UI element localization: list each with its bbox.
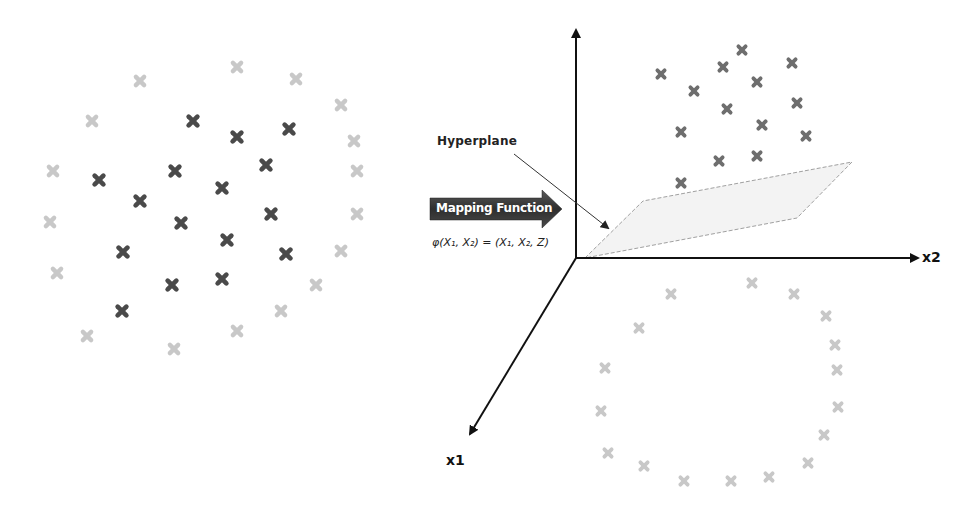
light-cross-icon — [816, 306, 836, 326]
light-cross-icon — [784, 284, 804, 304]
light-cross-icon — [270, 300, 293, 323]
dark-cross-icon — [215, 228, 239, 252]
dark-cross-icon — [651, 64, 671, 84]
kernel-trick-diagram: Hyperplane Mapping Function φ(X₁, X₂) = … — [0, 0, 973, 505]
light-cross-icon — [591, 401, 611, 421]
light-cross-icon — [825, 335, 845, 355]
dark-cross-icon — [87, 168, 111, 192]
light-cross-icon — [742, 273, 762, 293]
dark-cross-icon — [225, 125, 249, 149]
light-cross-icon — [330, 94, 353, 117]
light-cross-icon — [226, 56, 249, 79]
dark-cross-icon — [782, 53, 802, 73]
dark-cross-icon — [732, 40, 752, 60]
dark-cross-icon — [717, 99, 737, 119]
light-cross-icon — [595, 358, 615, 378]
dark-cross-icon — [259, 202, 283, 226]
diagram-scene — [0, 0, 973, 505]
light-cross-icon — [330, 240, 353, 263]
hyperplane-label: Hyperplane — [437, 134, 517, 148]
light-cross-icon — [76, 325, 99, 348]
light-cross-icon — [305, 274, 328, 297]
dark-cross-icon — [713, 57, 733, 77]
light-cross-icon — [163, 338, 186, 361]
dark-cross-icon — [128, 189, 152, 213]
dark-cross-icon — [210, 176, 234, 200]
dark-cross-icon — [684, 81, 704, 101]
dark-cross-icon — [747, 146, 767, 166]
dark-cross-icon — [254, 153, 278, 177]
hyperplane — [585, 162, 852, 258]
light-cross-icon — [629, 318, 649, 338]
light-cross-icon — [343, 130, 366, 153]
mapping-function-label: Mapping Function — [436, 201, 552, 215]
light-cross-icon — [346, 160, 369, 183]
data-points — [39, 40, 848, 491]
dark-cross-icon — [163, 159, 187, 183]
light-cross-icon — [226, 320, 249, 343]
dark-cross-icon — [747, 72, 767, 92]
light-cross-icon — [39, 211, 62, 234]
axis-x1 — [470, 258, 576, 434]
axis-x2-label: x2 — [922, 249, 941, 265]
light-cross-icon — [81, 110, 104, 133]
dark-cross-icon — [752, 115, 772, 135]
light-cross-icon — [759, 467, 779, 487]
light-cross-icon — [46, 262, 69, 285]
dark-cross-icon — [796, 126, 816, 146]
dark-cross-icon — [110, 299, 134, 323]
light-cross-icon — [827, 360, 847, 380]
light-cross-icon — [674, 471, 694, 491]
mapping-formula: φ(X₁, X₂) = (X₁, X₂, Z) — [432, 236, 549, 249]
light-cross-icon — [634, 456, 654, 476]
dark-cross-icon — [671, 173, 691, 193]
light-cross-icon — [828, 397, 848, 417]
light-cross-icon — [721, 471, 741, 491]
light-cross-icon — [798, 453, 818, 473]
dark-cross-icon — [111, 240, 135, 264]
light-cross-icon — [598, 443, 618, 463]
dark-cross-icon — [274, 242, 298, 266]
dark-cross-icon — [709, 151, 729, 171]
dark-cross-icon — [210, 267, 234, 291]
dark-cross-icon — [169, 211, 193, 235]
axis-x1-label: x1 — [446, 452, 465, 468]
dark-cross-icon — [671, 122, 691, 142]
dark-cross-icon — [277, 117, 301, 141]
light-cross-icon — [285, 68, 308, 91]
dark-cross-icon — [787, 93, 807, 113]
dark-cross-icon — [181, 109, 205, 133]
dark-cross-icon — [160, 273, 184, 297]
light-cross-icon — [346, 203, 369, 226]
light-cross-icon — [129, 70, 152, 93]
light-cross-icon — [814, 425, 834, 445]
light-cross-icon — [661, 284, 681, 304]
light-cross-icon — [42, 160, 65, 183]
